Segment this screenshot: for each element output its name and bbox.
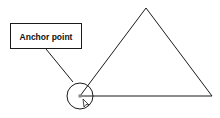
callout-label: Anchor point (20, 32, 73, 42)
diagram-canvas: Anchor point (0, 0, 220, 118)
triangle-shape[interactable] (80, 8, 212, 96)
callout-leader-line (46, 49, 73, 82)
anchor-point[interactable] (79, 95, 82, 98)
